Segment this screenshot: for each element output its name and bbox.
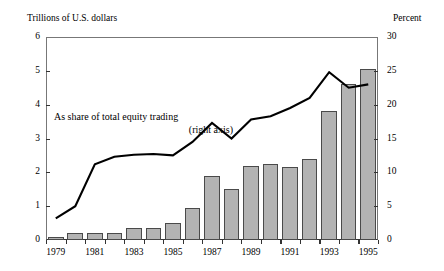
left-axis-tick-label: 1 [18, 201, 40, 211]
right-axis-tick-label: 5 [387, 201, 409, 211]
chart-figure: Trillions of U.S. dollars Percent 012345… [0, 0, 444, 271]
x-axis-tick [124, 240, 125, 244]
x-axis-tick [85, 240, 86, 244]
left-axis-unit-label: Trillions of U.S. dollars [27, 14, 117, 24]
x-axis-tick-label: 1981 [75, 248, 115, 258]
left-axis-tick [46, 71, 50, 72]
x-axis-tick [46, 240, 47, 244]
right-axis-tick-label: 15 [387, 134, 409, 144]
right-axis-tick-label: 25 [387, 66, 409, 76]
x-axis-tick [339, 240, 340, 244]
x-axis-tick [105, 240, 106, 244]
x-axis-tick [163, 240, 164, 244]
left-axis-tick-label: 4 [18, 100, 40, 110]
x-axis-tick [241, 240, 242, 244]
x-axis-tick [183, 240, 184, 244]
x-axis-tick-label: 1985 [153, 248, 193, 258]
right-axis-tick [374, 139, 378, 140]
left-axis-tick [46, 105, 50, 106]
left-axis-tick [46, 139, 50, 140]
left-axis-tick-label: 0 [18, 235, 40, 245]
x-axis-tick-label: 1989 [231, 248, 271, 258]
x-axis-tick [300, 240, 301, 244]
x-axis-tick-label: 1993 [309, 248, 349, 258]
x-axis-tick [358, 240, 359, 244]
x-axis-tick-label: 1995 [348, 248, 388, 258]
annotation-line-2: (right axis) [54, 123, 239, 136]
x-axis-tick [261, 240, 262, 244]
x-axis-tick-label: 1983 [114, 248, 154, 258]
left-axis-tick-label: 2 [18, 167, 40, 177]
x-axis-tick [202, 240, 203, 244]
x-axis-tick [222, 240, 223, 244]
plot-area [46, 37, 378, 240]
left-axis-tick-label: 5 [18, 66, 40, 76]
x-axis-tick [66, 240, 67, 244]
annotation-line-1: As share of total equity trading [54, 111, 178, 122]
x-axis-tick [319, 240, 320, 244]
right-axis-tick-label: 20 [387, 100, 409, 110]
x-axis-tick-label: 1987 [192, 248, 232, 258]
x-axis-tick-label: 1979 [36, 248, 76, 258]
left-axis-tick-label: 6 [18, 32, 40, 42]
right-axis-unit-label: Percent [393, 14, 422, 24]
left-axis-tick [46, 172, 50, 173]
x-axis-tick-label: 1991 [270, 248, 310, 258]
right-axis-tick-label: 30 [387, 32, 409, 42]
right-axis-tick [374, 172, 378, 173]
right-axis-tick-label: 0 [387, 235, 409, 245]
left-axis-tick [46, 206, 50, 207]
x-axis-tick [144, 240, 145, 244]
line-series [46, 37, 378, 240]
left-axis-tick-label: 3 [18, 134, 40, 144]
right-axis-tick [374, 105, 378, 106]
right-axis-tick-label: 10 [387, 167, 409, 177]
x-axis-tick [280, 240, 281, 244]
series-annotation: As share of total equity trading (right … [54, 110, 239, 136]
x-axis-tick [378, 240, 379, 244]
right-axis-tick [374, 71, 378, 72]
right-axis-tick [374, 206, 378, 207]
